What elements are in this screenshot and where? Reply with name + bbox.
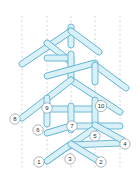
node-label-3[interactable]: 3: [65, 154, 75, 164]
node-label-2[interactable]: 2: [96, 157, 106, 167]
node-label-7[interactable]: 7: [67, 121, 77, 131]
node-label-6[interactable]: 6: [33, 125, 43, 135]
node-label-9[interactable]: 9: [42, 103, 52, 113]
diagram-canvas: 12345678910: [0, 0, 140, 172]
label-text: 10: [98, 103, 105, 109]
stick-segment: [92, 62, 98, 85]
node-label-10[interactable]: 10: [95, 100, 106, 111]
node-label-1[interactable]: 1: [34, 157, 44, 167]
node-label-8[interactable]: 8: [10, 114, 20, 124]
sticks-group: [18, 24, 130, 165]
stick-lattice-svg: 12345678910: [0, 0, 140, 172]
node-label-4[interactable]: 4: [120, 139, 130, 149]
node-label-5[interactable]: 5: [90, 131, 100, 141]
